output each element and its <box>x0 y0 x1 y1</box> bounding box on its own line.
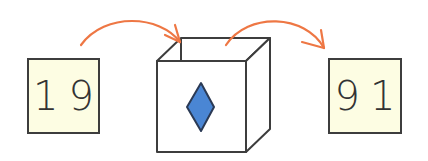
machine-box <box>157 38 270 152</box>
input-number-box: 19 <box>27 58 100 134</box>
input-number: 19 <box>23 73 104 119</box>
output-number: 91 <box>325 73 406 119</box>
function-machine-diagram: 19 91 <box>0 0 428 161</box>
output-number-box: 91 <box>328 58 402 134</box>
arrow-into-machine <box>81 21 180 45</box>
